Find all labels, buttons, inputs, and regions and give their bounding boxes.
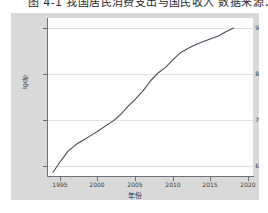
y-axis-tick	[43, 120, 47, 121]
line-series-lgdp	[47, 18, 253, 176]
plot-area	[47, 18, 253, 176]
x-axis-title: 年份	[11, 190, 259, 200]
y-axis-title: lgdp	[21, 75, 29, 89]
y-tick-label-9: 9	[231, 25, 259, 31]
page-caption-strip: 图 4-1 我国居民消费支出与国民收入 数据来源：国	[0, 0, 268, 13]
chart-panel: 9 8 7 6 1995 2000 2005 2010 2015 2020 lg…	[11, 13, 259, 200]
y-axis-tick	[43, 166, 47, 167]
y-axis-tick	[43, 28, 47, 29]
x-axis-line	[47, 176, 254, 177]
x-tick-label-2000: 2000	[84, 182, 110, 188]
y-tick-label-8: 8	[231, 71, 259, 77]
y-axis-line	[47, 18, 48, 177]
y-tick-label-7: 7	[231, 117, 259, 123]
x-tick-label-1995: 1995	[47, 182, 73, 188]
x-tick-label-2015: 2015	[197, 182, 223, 188]
page-caption-text: 图 4-1 我国居民消费支出与国民收入 数据来源：国	[28, 0, 268, 9]
x-tick-label-2020: 2020	[235, 182, 261, 188]
y-axis-tick	[43, 74, 47, 75]
x-tick-label-2010: 2010	[160, 182, 186, 188]
x-tick-label-2005: 2005	[122, 182, 148, 188]
chart-screenshot: 图 4-1 我国居民消费支出与国民收入 数据来源：国	[0, 0, 268, 213]
y-tick-label-6: 6	[231, 163, 259, 169]
